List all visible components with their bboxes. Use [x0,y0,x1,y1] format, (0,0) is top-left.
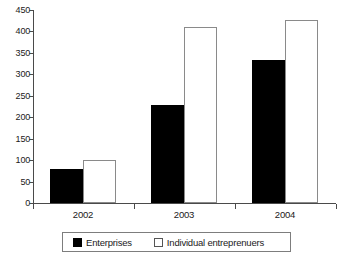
legend-item-label: Enterprises [86,237,132,248]
y-tick-label: 450 [0,6,30,15]
y-tick-label: 150 [0,135,30,144]
y-tick-label: 0 [0,199,30,208]
legend-item-enterprises[interactable]: Enterprises [73,233,132,251]
bar-individual-entrepreneurs-2003[interactable] [184,27,217,203]
y-tick-label: 400 [0,27,30,36]
y-tick-label: 250 [0,92,30,101]
bar-enterprises-2004[interactable] [252,60,285,203]
y-tick-label: 50 [0,178,30,187]
y-tick-label: 200 [0,113,30,122]
bar-individual-entrepreneurs-2004[interactable] [285,20,318,203]
y-tick-label: 350 [0,49,30,58]
y-tick-label: 300 [0,70,30,79]
x-tick-label-2002: 2002 [53,209,113,221]
bars-layer [33,0,336,225]
bar-chart: 450 400 350 300 250 200 150 100 50 0 [0,0,345,261]
plot-area: 450 400 350 300 250 200 150 100 50 0 [0,0,345,225]
hollow-square-icon [154,238,163,247]
x-tick-mark [336,204,337,209]
x-tick-label-2003: 2003 [154,209,214,221]
legend: Enterprises Individual entreprenuers [62,232,291,252]
bar-enterprises-2003[interactable] [151,105,184,203]
legend-item-label: Individual entreprenuers [167,237,264,248]
legend-item-individual-entrepreneurs[interactable]: Individual entreprenuers [154,233,264,251]
bar-enterprises-2002[interactable] [50,169,83,203]
filled-square-icon [73,238,82,247]
x-axis: 2002 2003 2004 [33,209,336,225]
x-tick-label-2004: 2004 [255,209,315,221]
y-tick-label: 100 [0,156,30,165]
y-axis: 450 400 350 300 250 200 150 100 50 0 [0,0,30,225]
bar-individual-entrepreneurs-2002[interactable] [83,160,116,203]
